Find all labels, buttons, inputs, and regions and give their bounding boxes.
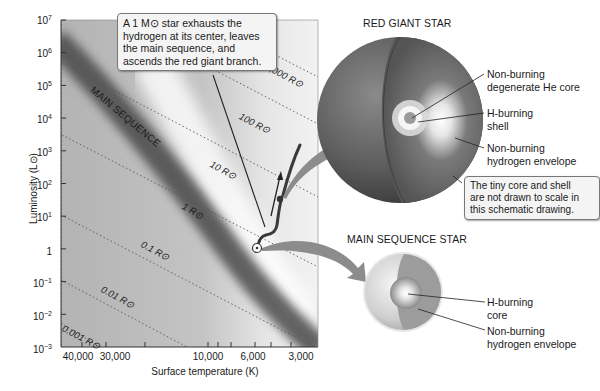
label-line: H-burning [487,107,533,120]
label-line: H-burning [487,296,533,309]
note-line: are not drawn to scale in [470,192,594,204]
label-line: shell [487,120,533,133]
label-line: hydrogen envelope [487,155,576,168]
ms-envelope-label: Non-burning hydrogen envelope [487,325,576,350]
scale-note: The tiny core and shell are not drawn to… [464,176,600,220]
label-line: Non-burning [487,142,576,155]
ms-core-label: H-burning core [487,296,533,321]
label-line: degenerate He core [487,81,580,94]
arrow-to-main-sequence-icon [262,241,366,282]
main-sequence-star-icon [363,252,485,332]
red-giant-title: RED GIANT STAR [363,17,452,29]
label-line: Non-burning [487,325,576,338]
note-line: The tiny core and shell [470,180,594,192]
note-line: this schematic drawing. [470,204,594,216]
rg-shell-label: H-burning shell [487,107,533,132]
label-line: hydrogen envelope [487,338,576,351]
label-line: Non-burning [487,68,580,81]
rg-envelope-label: Non-burning hydrogen envelope [487,142,576,167]
label-line: core [487,309,533,322]
rg-core-label: Non-burning degenerate He core [487,68,580,93]
main-sequence-star-title: MAIN SEQUENCE STAR [347,233,467,245]
